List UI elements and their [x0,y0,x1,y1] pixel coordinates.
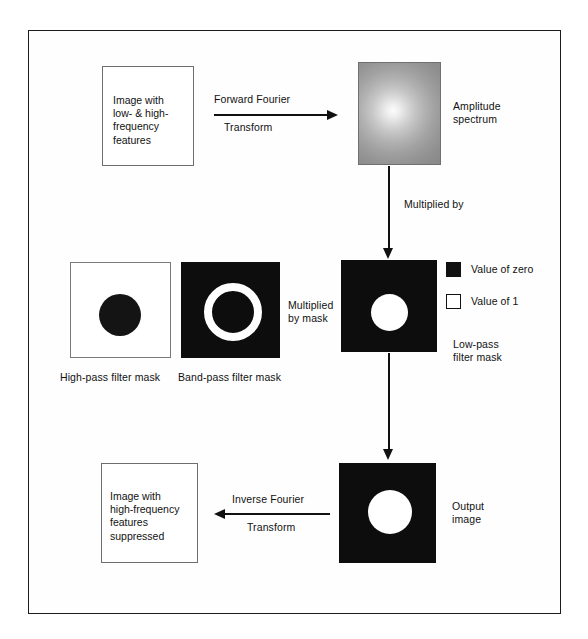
low-pass-mask-disc [371,294,408,331]
input-image-box: Image with low- & high- frequency featur… [102,66,194,166]
inverse-arrow-line [225,513,330,515]
multiplied-by-arrow-line [388,166,390,249]
result-image-box: Image with high-frequency features suppr… [101,463,198,563]
result-image-label: Image with high-frequency features suppr… [110,490,179,543]
high-pass-filter-mask-image [70,262,171,358]
band-pass-filter-mask-caption: Band-pass filter mask [178,371,328,384]
forward-arrow-head [327,110,338,120]
inverse-arrow-head [214,509,225,519]
forward-transform-label-top: Forward Fourier [214,93,334,106]
output-image [339,463,436,563]
output-image-disc [368,490,412,534]
low-pass-filter-mask-image [341,260,437,352]
inverse-transform-label-top: Inverse Fourier [232,493,352,506]
high-pass-mask-disc [99,294,141,336]
forward-transform-label-bottom: Transform [224,121,344,134]
to-output-arrow-line [388,353,390,450]
to-output-arrow-head [383,449,393,460]
legend-swatch-zero [446,262,461,277]
amplitude-spectrum-caption: Amplitude spectrum [453,100,553,126]
multiplied-by-label: Multiplied by [404,198,514,211]
forward-arrow-line [214,114,329,116]
low-pass-filter-mask-caption: Low-pass filter mask [453,338,553,364]
amplitude-spectrum-image [358,62,441,165]
output-image-caption: Output image [452,500,552,526]
multiplied-by-arrow-head [383,248,393,259]
band-pass-filter-mask-image [181,262,280,358]
inverse-transform-label-bottom: Transform [247,521,367,534]
legend-label-zero: Value of zero [471,263,581,276]
legend-swatch-one [446,294,461,309]
legend-label-one: Value of 1 [471,295,581,308]
figure-canvas: Image with low- & high- frequency featur… [0,0,588,639]
input-image-label: Image with low- & high- frequency featur… [113,94,168,147]
band-pass-mask-ring [204,283,262,341]
